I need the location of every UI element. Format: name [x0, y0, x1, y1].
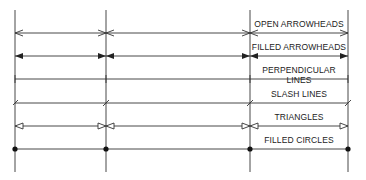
- label-filled-circles: FILLED CIRCLES: [250, 135, 348, 145]
- filled-arrowheads-row: [15, 53, 348, 59]
- label-filled-arrowheads: FILLED ARROWHEADS: [250, 42, 348, 52]
- label-perpendicular-lines: PERPENDICULAR LINES: [250, 65, 348, 85]
- filled-circles-row: [12, 146, 350, 151]
- label-slash-lines: SLASH LINES: [250, 89, 348, 99]
- slash-lines-row: [13, 100, 351, 106]
- label-triangles: TRIANGLES: [250, 112, 348, 122]
- open-arrowheads-row: [15, 30, 348, 36]
- triangles-row: [15, 123, 348, 129]
- label-open-arrowheads: OPEN ARROWHEADS: [250, 19, 348, 29]
